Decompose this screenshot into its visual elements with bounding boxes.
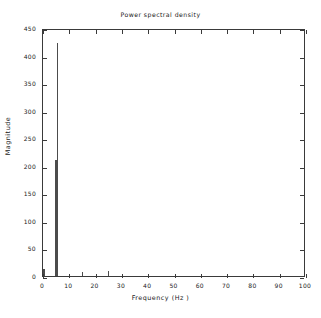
y-tick-6	[43, 113, 47, 114]
x-tick-label-10: 100	[292, 282, 318, 289]
y-tick-8	[43, 58, 47, 59]
y-tick-7	[43, 85, 47, 86]
x-tick-top-5	[175, 30, 176, 34]
y-tick-right-2	[300, 223, 304, 224]
x-tick-3	[122, 274, 123, 278]
x-tick-label-0: 0	[29, 282, 55, 289]
y-axis-label: Magnitude	[4, 106, 12, 166]
x-tick-top-3	[122, 30, 123, 34]
x-tick-label-7: 70	[213, 282, 239, 289]
y-tick-5	[43, 140, 47, 141]
y-tick-label-9: 450	[0, 25, 36, 32]
x-tick-label-1: 10	[55, 282, 81, 289]
bar-0-2	[57, 43, 58, 276]
y-tick-2	[43, 223, 47, 224]
figure-canvas: Power spectral density 01020304050607080…	[0, 0, 321, 318]
plot-frame	[42, 29, 305, 277]
x-tick-10	[306, 274, 307, 278]
x-tick-label-4: 40	[134, 282, 160, 289]
y-tick-label-8: 400	[0, 53, 36, 60]
x-tick-top-1	[69, 30, 70, 34]
x-tick-9	[280, 274, 281, 278]
x-tick-top-8	[253, 30, 254, 34]
x-tick-7	[227, 274, 228, 278]
x-tick-top-7	[227, 30, 228, 34]
plot-area	[43, 30, 304, 276]
y-tick-right-8	[300, 58, 304, 59]
y-tick-right-1	[300, 250, 304, 251]
y-tick-0	[43, 278, 47, 279]
x-tick-5	[175, 274, 176, 278]
y-tick-right-6	[300, 113, 304, 114]
bar-0-4	[108, 271, 109, 276]
y-tick-right-3	[300, 195, 304, 196]
y-tick-right-4	[300, 168, 304, 169]
x-tick-label-3: 30	[108, 282, 134, 289]
y-tick-label-1: 50	[0, 245, 36, 252]
x-tick-label-5: 50	[161, 282, 187, 289]
y-tick-3	[43, 195, 47, 196]
x-tick-label-6: 60	[187, 282, 213, 289]
y-tick-label-3: 150	[0, 190, 36, 197]
y-tick-right-7	[300, 85, 304, 86]
y-tick-right-0	[300, 278, 304, 279]
x-tick-8	[253, 274, 254, 278]
x-tick-4	[148, 274, 149, 278]
x-tick-2	[96, 274, 97, 278]
x-tick-top-4	[148, 30, 149, 34]
x-tick-top-6	[201, 30, 202, 34]
x-tick-1	[69, 274, 70, 278]
x-tick-label-2: 20	[82, 282, 108, 289]
x-tick-label-9: 90	[266, 282, 292, 289]
y-tick-right-5	[300, 140, 304, 141]
y-tick-label-0: 0	[0, 273, 36, 280]
x-tick-top-2	[96, 30, 97, 34]
y-tick-9	[43, 30, 47, 31]
bar-0-3	[82, 272, 83, 276]
x-axis-label: Frequency (Hz )	[0, 294, 321, 302]
y-tick-label-7: 350	[0, 80, 36, 87]
x-tick-top-9	[280, 30, 281, 34]
x-tick-6	[201, 274, 202, 278]
y-tick-label-2: 100	[0, 218, 36, 225]
chart-title: Power spectral density	[0, 11, 321, 18]
x-tick-top-10	[306, 30, 307, 34]
y-tick-4	[43, 168, 47, 169]
y-tick-1	[43, 250, 47, 251]
x-tick-label-8: 80	[239, 282, 265, 289]
y-tick-right-9	[300, 30, 304, 31]
